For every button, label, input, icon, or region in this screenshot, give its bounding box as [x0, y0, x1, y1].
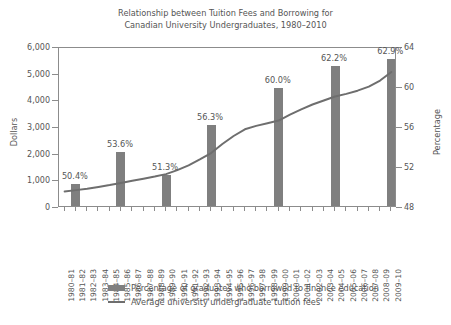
y-axis-left-tick-label: 2,000 [6, 149, 50, 158]
bar-value-label: 62.2% [321, 53, 347, 63]
y-axis-right-tick-mark [396, 207, 402, 208]
chart-legend: Percentage of graduates who borrowed to … [0, 281, 451, 309]
bar-value-label: 60.0% [265, 75, 291, 85]
chart-title: Relationship between Tuition Fees and Bo… [0, 8, 451, 31]
bar-value-label: 53.6% [107, 139, 133, 149]
y-axis-left-tick-label: 0 [6, 203, 50, 212]
y-axis-right-title: Percentage [432, 100, 442, 164]
chart-title-line-2: Canadian University Undergraduates, 1980… [0, 20, 451, 32]
bar-value-label: 51.3% [152, 162, 178, 172]
bar-value-label: 62.9% [377, 46, 403, 56]
chart-title-line-1: Relationship between Tuition Fees and Bo… [0, 8, 451, 20]
legend-line-swatch-icon [108, 301, 125, 303]
legend-item-tuition: Average university undergraduate tuition… [108, 295, 451, 309]
y-axis-right-tick-mark [396, 87, 402, 88]
y-axis-left-tick-label: 6,000 [6, 43, 50, 52]
y-axis-right-tick-label: 48 [404, 203, 434, 212]
y-axis-left-tick-mark [52, 207, 58, 208]
y-axis-right-tick-mark [396, 167, 402, 168]
y-axis-left-tick-label: 4,000 [6, 96, 50, 105]
legend-item-borrowers: Percentage of graduates who borrowed to … [108, 281, 451, 295]
bar-value-label: 56.3% [197, 112, 223, 122]
tuition-fee-line [65, 72, 392, 191]
plot-area [58, 47, 396, 207]
y-axis-right-tick-label: 56 [404, 123, 434, 132]
y-axis-right-tick-label: 64 [404, 43, 434, 52]
y-axis-right-tick-label: 52 [404, 163, 434, 172]
y-axis-right-tick-mark [396, 127, 402, 128]
plot-inner [59, 48, 395, 206]
x-axis-labels: 1980–811981–821982–831983–841984–851985–… [58, 209, 396, 271]
legend-bar-swatch-icon [108, 285, 125, 291]
y-axis-left-tick-label: 1,000 [6, 176, 50, 185]
chart-container: Relationship between Tuition Fees and Bo… [0, 0, 451, 325]
bar-value-label: 50.4% [62, 171, 88, 181]
legend-label-borrowers: Percentage of graduates who borrowed to … [131, 283, 379, 293]
y-axis-left-tick-label: 5,000 [6, 69, 50, 78]
tuition-fee-line-series [59, 48, 395, 206]
legend-label-tuition: Average university undergraduate tuition… [131, 297, 320, 307]
y-axis-left-tick-label: 3,000 [6, 123, 50, 132]
y-axis-right-tick-label: 60 [404, 83, 434, 92]
